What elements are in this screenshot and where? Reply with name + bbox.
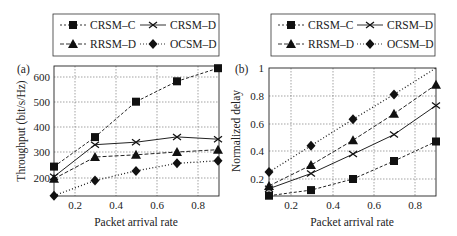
legend-label: OCSM–D [387, 38, 434, 50]
svg-text:0.6: 0.6 [150, 199, 164, 211]
legend-label: RRSM–D [90, 38, 136, 50]
svg-text:0.2: 0.2 [250, 173, 264, 185]
panel-a: CRSM–C CRSM–D RRSM–D OCSM–D (a) Throughp… [15, 14, 223, 228]
x-ticks-b: 0.2 0.4 0.6 0.8 [284, 199, 422, 211]
svg-text:1: 1 [259, 62, 265, 74]
panel-label-b: (b) [235, 63, 249, 76]
svg-text:0.4: 0.4 [109, 199, 123, 211]
legend-b: CRSM–C CRSM–D RRSM–D OCSM–D [271, 14, 435, 56]
series-b-ocsm-d [265, 68, 437, 177]
svg-text:0.2: 0.2 [68, 199, 82, 211]
x-ticks-a: 0.2 0.4 0.6 0.8 [68, 199, 205, 211]
svg-text:600: 600 [34, 71, 51, 83]
y-axis-label-b: Normalized delay [230, 90, 243, 172]
svg-text:400: 400 [34, 121, 51, 133]
grid-a [54, 66, 219, 196]
y-ticks-a: 600 500 400 300 200 [34, 71, 51, 184]
figure: CRSM–C CRSM–D RRSM–D OCSM–D (a) Throughp… [0, 0, 457, 236]
legend-label: RRSM–D [308, 38, 354, 50]
legend-label: OCSM–D [170, 38, 217, 50]
svg-text:0.6: 0.6 [367, 199, 381, 211]
svg-text:0.8: 0.8 [191, 199, 205, 211]
svg-text:300: 300 [34, 146, 51, 158]
legend-a: CRSM–C CRSM–D RRSM–D OCSM–D [53, 14, 219, 56]
y-axis-label-a: Throughput (bit/s/Hz) [15, 80, 28, 181]
legend-label: CRSM–C [308, 19, 354, 31]
svg-text:0.2: 0.2 [284, 199, 298, 211]
legend-label: CRSM–D [387, 19, 433, 31]
svg-text:0.8: 0.8 [250, 90, 264, 102]
svg-text:500: 500 [34, 96, 51, 108]
panel-b: CRSM–C CRSM–D RRSM–D OCSM–D (b) Normaliz… [230, 14, 441, 228]
svg-text:200: 200 [34, 172, 51, 184]
svg-text:0.6: 0.6 [250, 118, 264, 130]
x-axis-label-b: Packet arrival rate [310, 216, 394, 228]
x-axis-label-a: Packet arrival rate [94, 216, 178, 228]
legend-label: CRSM–C [90, 19, 136, 31]
svg-text:0.4: 0.4 [250, 145, 264, 157]
svg-text:0.4: 0.4 [326, 199, 340, 211]
panel-label-a: (a) [17, 63, 30, 76]
plot-frame-a [54, 66, 219, 196]
y-ticks-b: 1 0.8 0.6 0.4 0.2 [250, 62, 264, 185]
svg-text:0.8: 0.8 [408, 199, 422, 211]
legend-label: CRSM–D [170, 19, 216, 31]
